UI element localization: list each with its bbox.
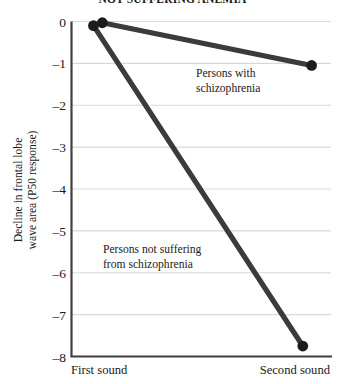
- data-point-marker: [306, 60, 317, 71]
- y-tick-label: –4: [52, 182, 67, 197]
- y-axis-title-line1: Decline in frontal lobe: [12, 138, 25, 243]
- data-point-marker: [297, 341, 308, 352]
- data-point-marker: [88, 20, 99, 31]
- series-annotation-control-line2: from schizophrenia: [103, 258, 193, 271]
- y-tick-label: –2: [52, 98, 67, 113]
- y-tick-labels: 0–1–2–3–4–5–6–7–8: [52, 15, 67, 365]
- y-tick-label: –5: [52, 224, 67, 239]
- series-line: [102, 23, 311, 66]
- x-tick-label-first-sound: First sound: [71, 363, 128, 377]
- series-annotation-control-line1: Persons not suffering: [103, 243, 202, 256]
- chart-plot-area: 0–1–2–3–4–5–6–7–8 First sound Second sou…: [0, 0, 345, 384]
- series-annotation-schizophrenia-line2: schizophrenia: [196, 82, 260, 95]
- y-tick-label: 0: [59, 15, 66, 30]
- y-tick-label: –7: [52, 308, 67, 323]
- y-tick-label: –6: [52, 266, 67, 281]
- y-tick-label: –1: [52, 56, 67, 71]
- figure: NOT SUFFERING ANEMIA 0–1–2–3–4–5–6–7–8 F…: [0, 0, 345, 384]
- x-tick-label-second-sound: Second sound: [260, 363, 331, 377]
- y-axis-title-line2: wave area (P50 response): [26, 130, 39, 249]
- y-tick-label: –3: [52, 140, 67, 155]
- y-tick-label: –8: [52, 350, 67, 365]
- series-annotation-schizophrenia-line1: Persons with: [196, 67, 256, 80]
